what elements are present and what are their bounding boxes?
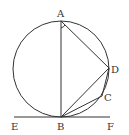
label-e: E — [11, 121, 18, 132]
label-d: D — [111, 64, 119, 75]
label-c: C — [104, 92, 112, 103]
label-b: B — [57, 121, 64, 132]
label-a: A — [56, 8, 65, 19]
chord-bd — [61, 68, 109, 117]
chord-bc — [61, 96, 102, 117]
angle-mark-a — [61, 25, 65, 28]
geometry-diagram: A B C D E F — [0, 0, 129, 135]
label-f: F — [107, 121, 114, 132]
